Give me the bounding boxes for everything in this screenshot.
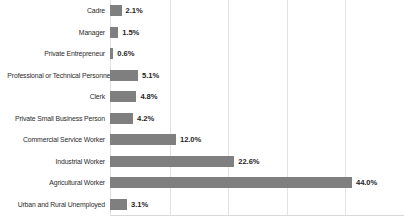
bar	[110, 5, 122, 16]
bar	[110, 48, 113, 59]
category-label: Cadre	[7, 0, 105, 22]
bar-row: Industrial Worker22.6%	[0, 151, 404, 173]
bar-row: Manager1.5%	[0, 22, 404, 44]
bar-value-label: 3.1%	[131, 194, 148, 216]
bar	[110, 91, 136, 102]
category-label: Private Small Business Person	[7, 108, 105, 130]
bar	[110, 134, 176, 145]
bar-value-label: 2.1%	[126, 0, 143, 22]
bar	[110, 70, 138, 81]
bar-chart: Cadre2.1%Manager1.5%Private Entrepreneur…	[0, 0, 404, 222]
bar-value-label: 22.6%	[238, 151, 259, 173]
bar-value-label: 4.8%	[140, 86, 157, 108]
bar	[110, 156, 234, 167]
category-label: Commercial Service Worker	[7, 129, 105, 151]
x-axis-line	[110, 215, 404, 216]
bar-row: Professional or Technical Personnel5.1%	[0, 65, 404, 87]
category-label: Private Entrepreneur	[7, 43, 105, 65]
bar-row: Private Entrepreneur0.6%	[0, 43, 404, 65]
bar-value-label: 44.0%	[356, 172, 377, 194]
bar-row: Commercial Service Worker12.0%	[0, 129, 404, 151]
category-label: Clerk	[7, 86, 105, 108]
bar-row: Cadre2.1%	[0, 0, 404, 22]
bar-row: Urban and Rural Unemployed3.1%	[0, 194, 404, 216]
bar-value-label: 1.5%	[122, 22, 139, 44]
bar-row: Private Small Business Person4.2%	[0, 108, 404, 130]
bar-row: Agricultural Worker44.0%	[0, 172, 404, 194]
bar-value-label: 4.2%	[137, 108, 154, 130]
bar	[110, 113, 133, 124]
category-label: Industrial Worker	[7, 151, 105, 173]
bar-value-label: 5.1%	[142, 65, 159, 87]
category-label: Agricultural Worker	[7, 172, 105, 194]
bar-value-label: 0.6%	[117, 43, 134, 65]
category-label: Urban and Rural Unemployed	[7, 194, 105, 216]
bar	[110, 177, 352, 188]
bar	[110, 27, 118, 38]
category-label: Professional or Technical Personnel	[7, 65, 105, 87]
bar-value-label: 12.0%	[180, 129, 201, 151]
bar	[110, 199, 127, 210]
category-label: Manager	[7, 22, 105, 44]
bar-row: Clerk4.8%	[0, 86, 404, 108]
